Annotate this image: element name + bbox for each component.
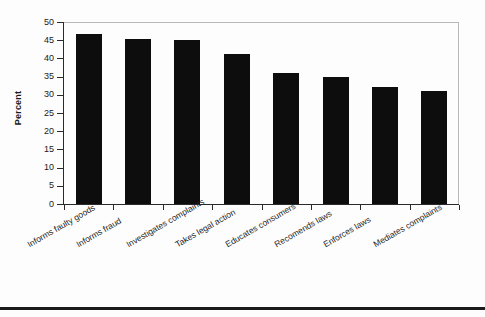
x-axis-tick-mark [459, 205, 460, 210]
x-axis-tick-mark [64, 205, 65, 210]
bar-chart-figure: Percent 05101520253035404550 Informs fau… [0, 0, 485, 317]
x-axis-tick-label: Informs fraud [75, 216, 123, 250]
bar [76, 34, 102, 205]
x-axis-tick-mark [311, 205, 312, 210]
x-axis-tick-label: Enforces laws [322, 214, 373, 249]
x-axis-tick-label: Mediates complaints [371, 202, 443, 249]
bar [372, 87, 398, 205]
y-axis-tick-label: 50 [28, 18, 54, 27]
x-axis-tick-mark [262, 205, 263, 210]
y-axis-tick-label: 0 [28, 200, 54, 209]
bar [125, 39, 151, 205]
x-axis-tick-mark [113, 205, 114, 210]
bar [174, 40, 200, 205]
y-axis-tick-label: 5 [28, 181, 54, 190]
plot-area [64, 22, 459, 204]
x-axis-tick-mark [212, 205, 213, 210]
x-axis-tick-mark [360, 205, 361, 210]
y-axis-tick-label: 25 [28, 109, 54, 118]
y-axis-title: Percent [13, 73, 23, 143]
page-bottom-rule [0, 307, 485, 310]
x-axis-tick-mark [410, 205, 411, 210]
bar [273, 73, 299, 205]
x-axis-tick-mark [163, 205, 164, 210]
y-axis-tick-label: 15 [28, 145, 54, 154]
bar [323, 77, 349, 205]
y-axis-tick-label: 45 [28, 36, 54, 45]
bar [224, 54, 250, 205]
y-axis-tick-label: 20 [28, 127, 54, 136]
y-axis-tick-label: 40 [28, 54, 54, 63]
y-axis-tick-label: 30 [28, 90, 54, 99]
bar [421, 91, 447, 205]
y-axis-tick-label: 35 [28, 72, 54, 81]
y-axis-tick-label: 10 [28, 163, 54, 172]
